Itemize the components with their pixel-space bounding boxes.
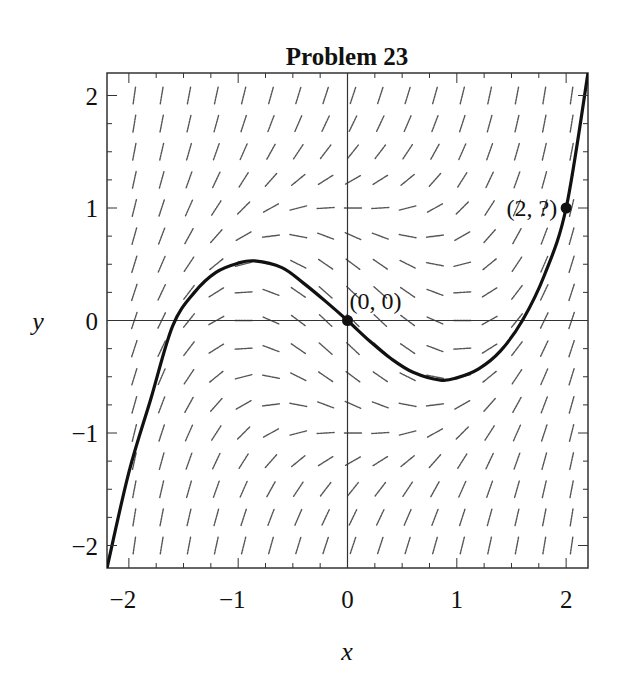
slope-segment (486, 453, 493, 468)
slope-segment (264, 204, 279, 212)
slope-segment (322, 116, 329, 131)
slope-segment (399, 403, 416, 406)
slope-segment (133, 172, 137, 189)
slope-segment (401, 175, 414, 186)
slope-segment (235, 348, 252, 349)
slope-segment (319, 259, 333, 269)
x-axis-label: x (340, 637, 353, 666)
slope-segment (132, 369, 137, 385)
slope-segment (213, 453, 220, 468)
slope-segment (265, 174, 276, 187)
slope-segment (404, 510, 411, 526)
slope-segment (487, 509, 492, 525)
slope-segment (317, 432, 334, 433)
slope-segment (350, 537, 355, 553)
slope-segment (214, 537, 218, 554)
slope-segment (569, 284, 574, 300)
slope-segment (570, 537, 572, 554)
y-tick-label: 1 (86, 195, 99, 222)
slope-segment (541, 397, 547, 413)
slope-segment (569, 256, 574, 272)
slope-segment (541, 285, 548, 300)
slope-segment (400, 373, 415, 381)
slope-segment (373, 175, 387, 184)
slope-segment (292, 175, 305, 186)
slope-segment (263, 346, 279, 352)
slope-segment (512, 370, 521, 384)
slope-segment (460, 509, 465, 525)
slope-segment (570, 509, 573, 526)
slope-segment (187, 115, 191, 132)
slope-segment (290, 235, 307, 238)
slope-segment (133, 143, 136, 160)
slope-segment (290, 431, 306, 435)
slope-segment (543, 115, 546, 132)
annotation-points: (0, 0)(2, ?) (342, 195, 572, 326)
slope-segment (185, 229, 193, 244)
slope-segment (401, 456, 414, 467)
slope-segment (187, 537, 190, 554)
slope-segment (347, 343, 359, 355)
slope-segment (265, 455, 276, 468)
slope-segment (186, 453, 192, 469)
slope-segment (133, 87, 135, 104)
slope-segment (541, 369, 548, 385)
slope-segment (160, 143, 164, 160)
slope-segment (238, 202, 250, 214)
slope-segment (160, 509, 163, 526)
slope-segment (373, 259, 387, 269)
slope-segment (541, 341, 548, 356)
slope-segment (236, 401, 251, 409)
slope-segment (240, 144, 247, 160)
slope-segment (372, 432, 389, 433)
slope-segment (160, 481, 164, 498)
slope-segment (159, 172, 164, 188)
slope-segment (432, 509, 438, 525)
slope-segment (459, 481, 466, 497)
slope-segment (482, 344, 496, 353)
slope-segment (238, 427, 250, 439)
slope-segment (291, 260, 306, 268)
point-label: (0, 0) (350, 288, 402, 314)
slope-segment (320, 482, 330, 496)
slope-segment (485, 201, 494, 215)
slope-segment (513, 229, 521, 244)
slope-segment (348, 483, 359, 496)
slope-segment (323, 87, 328, 103)
chart-canvas: Problem 23 −2−1012−2−1012 (0, 0)(2, ?) x… (0, 0, 621, 692)
slope-segment (458, 173, 467, 187)
slope-segment (427, 235, 444, 237)
slope-segment (158, 285, 165, 300)
slope-segment (486, 172, 493, 187)
slope-segment (214, 115, 219, 131)
slope-segment (431, 144, 439, 159)
slope-segment (268, 116, 274, 132)
slope-segment (543, 537, 546, 554)
slope-segment (294, 482, 303, 496)
slope-segment (570, 115, 573, 132)
slope-segment (159, 453, 164, 469)
y-tick-label: −1 (71, 420, 98, 447)
slope-segment (427, 404, 444, 406)
slope-segment (515, 481, 520, 497)
slope-segment (133, 115, 136, 132)
slope-segment (484, 399, 495, 412)
slope-segment (515, 115, 519, 132)
slope-segment (570, 425, 574, 441)
slope-segment (209, 288, 223, 297)
slope-segment (456, 202, 468, 214)
slope-segment (404, 116, 411, 132)
slope-segment (213, 144, 219, 160)
slope-segment (133, 537, 135, 554)
slope-segment (515, 144, 520, 160)
slope-segment (512, 342, 522, 356)
point-marker (342, 315, 353, 326)
slope-segment (483, 371, 496, 382)
slope-segment (432, 116, 438, 132)
slope-segment (209, 344, 223, 353)
slope-segment (295, 116, 302, 132)
slope-segment (483, 259, 496, 270)
slope-segment (159, 425, 164, 441)
slope-segment (317, 207, 334, 208)
slope-segment (214, 509, 219, 525)
